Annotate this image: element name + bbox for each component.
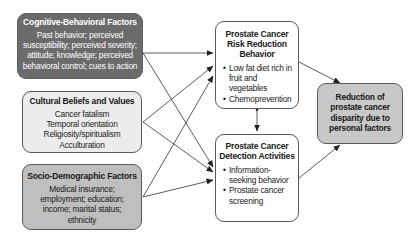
socio-demographic-factors-box: Socio-Demographic Factors Medical insura… <box>22 164 142 230</box>
box-title: Reduction of prostate cancer disparity d… <box>318 92 402 134</box>
title-line: Prostate Cancer <box>216 29 298 39</box>
box-body: Medical insurance; employment; education… <box>23 184 141 225</box>
box-title: Cultural Beliefs and Values <box>23 96 141 106</box>
box-line: attitude; knowledge; perceived <box>18 50 142 60</box>
arrow-cognitive-to-detection <box>143 53 213 167</box>
title-line: prostate cancer <box>318 102 402 112</box>
title-line: Detection Activities <box>216 151 298 161</box>
box-body: Cancer fatalism Temporal orientation Rel… <box>23 109 141 150</box>
disparity-reduction-outcome-box: Reduction of prostate cancer disparity d… <box>317 83 403 144</box>
box-line: Cancer fatalism <box>23 109 141 119</box>
box-line: income; marital status; <box>23 204 141 214</box>
box-line: ethnicity <box>23 215 141 225</box>
bullet-list: Low fat diet rich in fruit and vegetable… <box>216 63 298 104</box>
box-line: Acculturation <box>23 140 141 150</box>
bullet-item: Prostate cancer screening <box>224 185 295 205</box>
detection-activities-box: Prostate Cancer Detection Activities Inf… <box>215 134 299 222</box>
title-line: personal factors <box>318 123 402 133</box>
box-body: Past behavior; perceived susceptibility;… <box>18 30 142 71</box>
box-line: Medical insurance; <box>23 184 141 194</box>
bullet-list: Information-seeking behavior Prostate ca… <box>216 165 298 206</box>
bullet-item: Information-seeking behavior <box>224 165 295 185</box>
bullet-item: Chemoprevention <box>224 94 295 104</box>
bullet-item: Low fat diet rich in fruit and vegetable… <box>224 63 295 94</box>
title-line: Behavior <box>216 49 298 59</box>
arrow-detection-to-outcome <box>299 145 340 178</box>
title-line: Reduction of <box>318 92 402 102</box>
title-line: Prostate Cancer <box>216 141 298 151</box>
box-title: Cognitive-Behavioral Factors <box>18 17 142 27</box>
box-line: Past behavior; perceived <box>18 30 142 40</box>
cultural-beliefs-values-box: Cultural Beliefs and Values Cancer fatal… <box>22 91 142 153</box>
box-title: Socio-Demographic Factors <box>23 171 141 181</box>
box-title: Prostate Cancer Risk Reduction Behavior <box>216 29 298 59</box>
box-line: behavioral control; cues to action <box>18 61 142 71</box>
arrow-risk-to-outcome <box>299 62 340 83</box>
cognitive-behavioral-factors-box: Cognitive-Behavioral Factors Past behavi… <box>17 13 143 79</box>
title-line: Risk Reduction <box>216 39 298 49</box>
arrow-cultural-to-detection <box>143 122 213 172</box>
box-line: Temporal orientation <box>23 119 141 129</box>
box-line: susceptibility; perceived severity; <box>18 40 142 50</box>
title-line: disparity due to <box>318 113 402 123</box>
arrow-socio-to-detection <box>143 180 213 197</box>
box-line: employment; education; <box>23 194 141 204</box>
box-title: Prostate Cancer Detection Activities <box>216 141 298 161</box>
risk-reduction-behavior-box: Prostate Cancer Risk Reduction Behavior … <box>215 21 299 109</box>
box-line: Religiosity/spiritualism <box>23 129 141 139</box>
